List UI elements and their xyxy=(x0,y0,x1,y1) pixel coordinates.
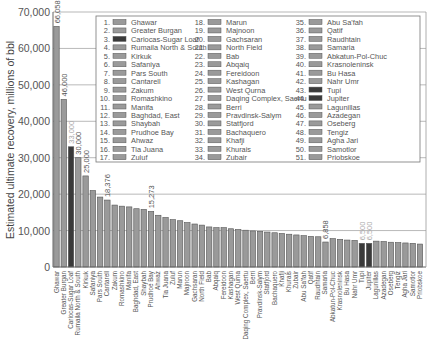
bar-agha-jari xyxy=(403,243,408,267)
legend-swatch xyxy=(113,129,126,134)
x-tick-label: Zuluf xyxy=(169,271,176,285)
legend-item: 51.Priobskoe xyxy=(296,153,360,162)
bar-kashagan xyxy=(228,229,233,267)
x-tick-label: Raudhtain xyxy=(314,271,321,300)
legend-swatch xyxy=(309,53,322,58)
bar-khafji xyxy=(279,233,284,267)
bar-abqaiq xyxy=(214,228,219,267)
data-label: 25,000 xyxy=(82,150,91,173)
legend-swatch xyxy=(208,155,221,160)
bar-berri xyxy=(250,231,255,267)
bar-jupiter xyxy=(366,243,371,267)
x-tick-label: Samaria xyxy=(321,271,328,295)
x-tick-label: Marun xyxy=(176,271,183,289)
legend-swatch xyxy=(309,70,322,75)
bar-ghawar xyxy=(54,26,59,267)
y-tick-label: 30,000 xyxy=(18,152,50,164)
bar-fereidoon xyxy=(221,228,226,267)
bar-raudhtain xyxy=(316,237,321,267)
x-tick-label: Bu Hasa xyxy=(343,271,350,296)
bar-zakum xyxy=(112,205,117,267)
bar-azadegan xyxy=(381,242,386,268)
y-tick-label: 40,000 xyxy=(18,115,50,127)
x-tick-label: Zubair xyxy=(292,271,299,289)
data-label: 46,000 xyxy=(60,73,69,96)
bar-marun xyxy=(177,221,182,267)
bar-west-qurna xyxy=(236,229,241,267)
bar-shaybah xyxy=(141,209,146,267)
legend-swatch xyxy=(309,87,322,92)
x-tick-label: Cantarell xyxy=(103,271,110,296)
legend-swatch xyxy=(113,79,126,84)
bar-bab xyxy=(206,227,211,267)
bar-tupi xyxy=(359,243,364,267)
legend-swatch xyxy=(113,138,126,143)
x-tick-label: Berri xyxy=(249,271,256,284)
x-tick-label: Ahwaz xyxy=(154,271,161,290)
legend-swatch xyxy=(113,20,126,25)
legend-swatch xyxy=(113,87,126,92)
legend-swatch xyxy=(208,53,221,58)
bar-prudhoe-bay xyxy=(148,211,153,267)
bar-baghdad-east xyxy=(134,209,139,267)
legend-swatch xyxy=(208,79,221,84)
x-tick-label: Manifa xyxy=(125,271,132,290)
legend-swatch xyxy=(208,62,221,67)
x-tick-label: Khurais xyxy=(285,271,292,292)
bar-nahr-umr xyxy=(352,240,357,267)
x-tick-label: Priobskoe xyxy=(416,271,423,299)
bar-gachsaran xyxy=(192,224,197,267)
legend-swatch xyxy=(208,104,221,109)
bar-tia-juana xyxy=(163,217,168,267)
legend-swatch xyxy=(309,146,322,151)
legend-swatch xyxy=(208,20,221,25)
legend-swatch xyxy=(309,138,322,143)
bar-bachaquero xyxy=(272,233,277,267)
y-tick-label: 60,000 xyxy=(18,42,50,54)
bar-kirkuk xyxy=(83,176,88,267)
legend-swatch xyxy=(113,121,126,126)
x-tick-label: Pars South xyxy=(96,271,103,303)
legend-swatch xyxy=(208,112,221,117)
legend-swatch xyxy=(309,155,322,160)
x-tick-labels: GhawarGreater BurganCariocas-Sugar LoafR… xyxy=(53,270,424,339)
bar-cariocas-sugar-loaf xyxy=(68,147,73,267)
legend-swatch xyxy=(208,146,221,151)
legend-swatch xyxy=(208,28,221,33)
bar-krasnoleninsk xyxy=(337,239,342,267)
x-tick-label: Gachsaran xyxy=(191,271,198,302)
legend-number: 34. xyxy=(195,153,205,162)
bar-lagunillas xyxy=(374,241,379,267)
bar-samaria xyxy=(323,242,328,267)
legend-swatch xyxy=(309,45,322,50)
legend-swatch xyxy=(309,112,322,117)
bar-north-field xyxy=(199,225,204,267)
legend-swatch xyxy=(113,28,126,33)
y-tick-label: 70,000 xyxy=(18,6,50,18)
legend-swatch xyxy=(208,87,221,92)
bar-oseberg xyxy=(388,242,393,267)
bar-majnoon xyxy=(185,223,190,267)
legend-swatch xyxy=(309,36,322,41)
bar-romashkino xyxy=(119,206,124,267)
y-tick-labels: 010,00020,00030,00040,00050,00060,00070,… xyxy=(18,6,50,273)
legend-swatch xyxy=(208,70,221,75)
bar-ahwaz xyxy=(156,215,161,267)
bar-abu-sa-fah xyxy=(301,236,306,267)
bar-manifa xyxy=(127,207,132,267)
data-label: 6,500 xyxy=(365,222,374,241)
legend-swatch xyxy=(113,53,126,58)
bar-abkatun-pol-chuc xyxy=(330,239,335,267)
y-tick-label: 20,000 xyxy=(18,188,50,200)
bar-chart: 010,00020,00030,00040,00050,00060,00070,… xyxy=(0,0,434,361)
x-tick-label: Ghawar xyxy=(53,271,60,293)
bar-priobskoe xyxy=(417,244,422,267)
legend-swatch xyxy=(208,36,221,41)
x-tick-label: Kirkuk xyxy=(82,270,89,288)
legend-swatch xyxy=(113,155,126,160)
data-label: 66,058 xyxy=(53,0,62,23)
legend-swatch xyxy=(208,121,221,126)
bar-greater-burgan xyxy=(61,99,66,267)
data-label: 6,858 xyxy=(321,220,330,239)
bar-samotlor xyxy=(410,243,415,267)
